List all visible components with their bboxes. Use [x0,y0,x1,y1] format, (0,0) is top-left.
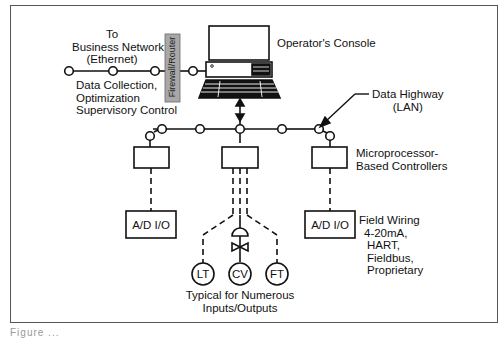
figure-caption: Figure ... [10,327,59,338]
operators-console-label: Operator's Console [277,37,376,50]
console-highway-arrow [236,99,244,121]
io-right-label: A/D I/O [305,219,355,232]
field-wiring-label: Field Wiring 4-20mA, HART, Fieldbus, Pro… [359,214,423,277]
data-highway-pointer [320,94,369,127]
data-collection-label: Data Collection, Optimization Supervisor… [76,79,177,117]
controller-box-right [312,147,347,168]
typical-label: Typical for Numerous Inputs/Outputs [180,289,300,314]
network-node [65,67,74,76]
network-node [109,67,118,76]
controller-box-center [222,147,258,168]
data-highway [146,121,335,147]
business-network-label: To Business Network (Ethernet) [72,28,152,66]
operator-console-icon [199,26,280,98]
network-node [189,67,198,76]
control-valve-symbol [232,215,248,262]
field-wire-ft [247,215,277,264]
io-left-label: A/D I/O [126,219,176,232]
instrument-cv-label: CV [229,268,251,281]
controllers-label: Microprocessor- Based Controllers [356,147,447,172]
instrument-lt-label: LT [192,268,214,281]
instrument-ft-label: FT [266,268,288,281]
data-highway-label: Data Highway (LAN) [372,88,444,113]
field-wire-lt [203,215,233,264]
network-node [151,67,160,76]
controller-box-left [134,147,169,168]
firewall-router-label: Firewall/Router [165,34,180,102]
